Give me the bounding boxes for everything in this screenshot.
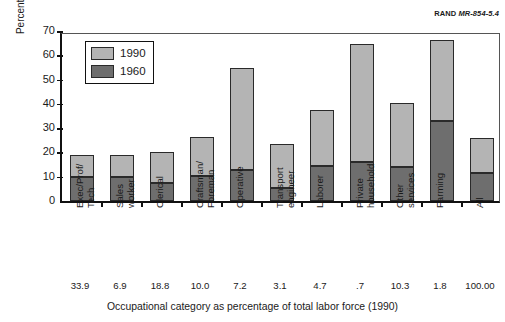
rand-org-label: RAND <box>434 9 456 18</box>
x-axis-category-label: Laborer <box>315 136 326 208</box>
y-axis-tick-label: 50 <box>43 73 55 85</box>
x-axis-category-label: Farming <box>435 136 446 208</box>
x-axis-tick-mark <box>101 201 103 207</box>
x-axis-category-label: Exec/Prof/ Tech <box>75 136 96 208</box>
x-axis-caption: Occupational category as percentage of t… <box>0 301 505 312</box>
x-axis-tick-mark <box>221 201 223 207</box>
legend-item-1960: 1960 <box>91 64 146 79</box>
x-axis-tick-mark <box>301 201 303 207</box>
x-axis-category-label: Other services <box>395 136 416 208</box>
legend-swatch-1960 <box>91 65 114 78</box>
bar-segment-1990 <box>430 40 454 121</box>
x-axis-tick-mark <box>341 201 343 207</box>
y-axis-tick-label: 40 <box>43 97 55 109</box>
y-axis-tick-label: 20 <box>43 145 55 157</box>
x-axis-category-label: Transport engineer <box>275 136 296 208</box>
chart-figure: RAND MR-854-5.4 Percent immigrants 01020… <box>0 0 505 322</box>
y-axis-tick-label: 30 <box>43 121 55 133</box>
x-axis-category-label: Private household <box>355 136 376 208</box>
y-axis-title: Percent immigrants <box>15 0 26 56</box>
x-axis-category-label: Clerical <box>155 136 166 208</box>
rand-document-number: MR-854-5.4 <box>458 9 499 18</box>
y-axis-tick-mark <box>57 31 63 33</box>
legend-item-1990: 1990 <box>91 46 146 61</box>
labor-force-percentage-value: 100.00 <box>456 280 504 291</box>
x-axis-tick-mark <box>421 201 423 207</box>
x-axis-category-label: Craftsman/ Foreman <box>195 136 216 208</box>
x-axis-category-label: Sales worker <box>115 136 136 208</box>
x-axis-tick-mark <box>261 201 263 207</box>
x-axis-category-label: All <box>475 136 486 208</box>
x-axis-tick-mark <box>461 201 463 207</box>
legend-swatch-1990 <box>91 47 114 60</box>
y-axis-tick-label: 10 <box>43 170 55 182</box>
legend: 1990 1960 <box>85 41 154 84</box>
x-axis-tick-mark <box>381 201 383 207</box>
x-axis-tick-mark <box>141 201 143 207</box>
x-axis-category-label: Operative <box>235 136 246 208</box>
y-axis-tick-label: 0 <box>49 194 55 206</box>
rand-credit: RAND MR-854-5.4 <box>434 9 499 18</box>
legend-label-1960: 1960 <box>120 66 146 78</box>
y-axis-tick-label: 70 <box>43 24 55 36</box>
legend-label-1990: 1990 <box>120 48 146 60</box>
y-axis-tick-label: 60 <box>43 48 55 60</box>
x-axis-tick-mark <box>181 201 183 207</box>
